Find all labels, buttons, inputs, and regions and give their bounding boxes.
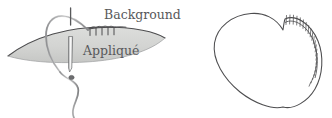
diagram-canvas: Background Appliqué bbox=[0, 0, 332, 118]
heart-stitch-ticks bbox=[286, 15, 317, 86]
background-label: Background bbox=[104, 7, 181, 22]
stitch-detail-panel bbox=[8, 8, 165, 118]
applique-diagram-figure: Background Appliqué bbox=[0, 0, 332, 118]
thread-knot bbox=[69, 75, 74, 79]
heart-panel bbox=[214, 13, 322, 107]
applique-label: Appliqué bbox=[82, 43, 139, 58]
heart-stitch-line bbox=[285, 21, 317, 78]
